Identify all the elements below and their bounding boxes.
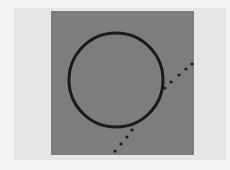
black-circle	[69, 33, 163, 127]
dot	[169, 80, 172, 83]
dot	[125, 135, 128, 138]
drawing	[0, 0, 230, 170]
dot	[190, 62, 193, 65]
dot	[163, 86, 166, 89]
dot	[177, 73, 180, 76]
dot	[113, 149, 116, 152]
dot	[184, 67, 187, 70]
dot	[130, 128, 133, 131]
dot	[119, 142, 122, 145]
